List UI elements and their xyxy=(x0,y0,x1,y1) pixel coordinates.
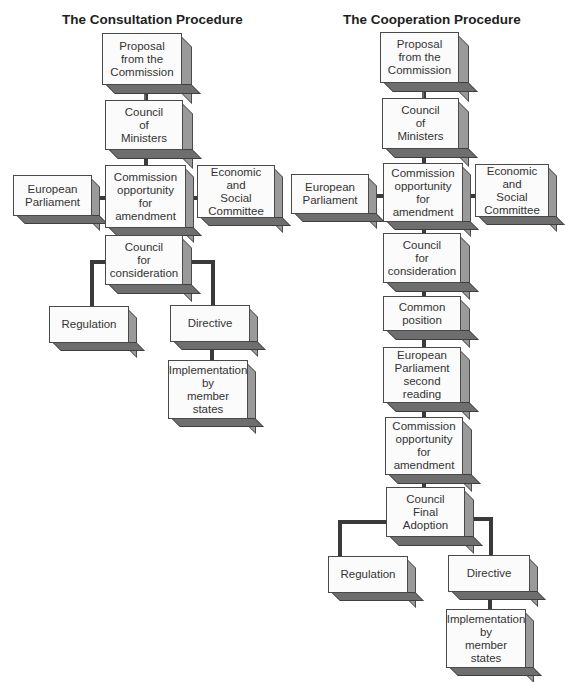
box-label: Directive xyxy=(188,317,233,330)
box-label: European Parliament xyxy=(303,181,358,207)
box-label: Regulation xyxy=(62,318,117,331)
box-label: Economic and Social Committee xyxy=(484,165,540,217)
box-label: Common position xyxy=(399,301,446,327)
box-label: Commission opportunity for amendment xyxy=(392,420,455,472)
box-label: Proposal from the Commission xyxy=(110,40,173,79)
box-label: Commission opportunity for amendment xyxy=(391,167,454,219)
box-label: European Parliament xyxy=(25,183,80,209)
box-label: Council Final Adoption xyxy=(403,493,448,532)
box-label: Regulation xyxy=(341,568,396,581)
box-label: Council of Ministers xyxy=(397,104,443,143)
box-label: Directive xyxy=(467,567,512,580)
box-label: Economic and Social Committee xyxy=(208,166,264,218)
box-label: Council for consideration xyxy=(388,239,456,278)
box-label: Commission opportunity for amendment xyxy=(114,171,177,223)
box-label: Implementation by member states xyxy=(447,613,526,665)
box-label: Council of Ministers xyxy=(121,106,167,145)
box-label: Council for consideration xyxy=(110,241,178,280)
box-label: European Parliament second reading xyxy=(395,349,450,401)
box-label: Implementation by member states xyxy=(169,364,248,416)
box-label: Proposal from the Commission xyxy=(388,38,451,77)
cooperation-title: The Cooperation Procedure xyxy=(343,12,521,27)
consultation-title: The Consultation Procedure xyxy=(62,12,243,27)
